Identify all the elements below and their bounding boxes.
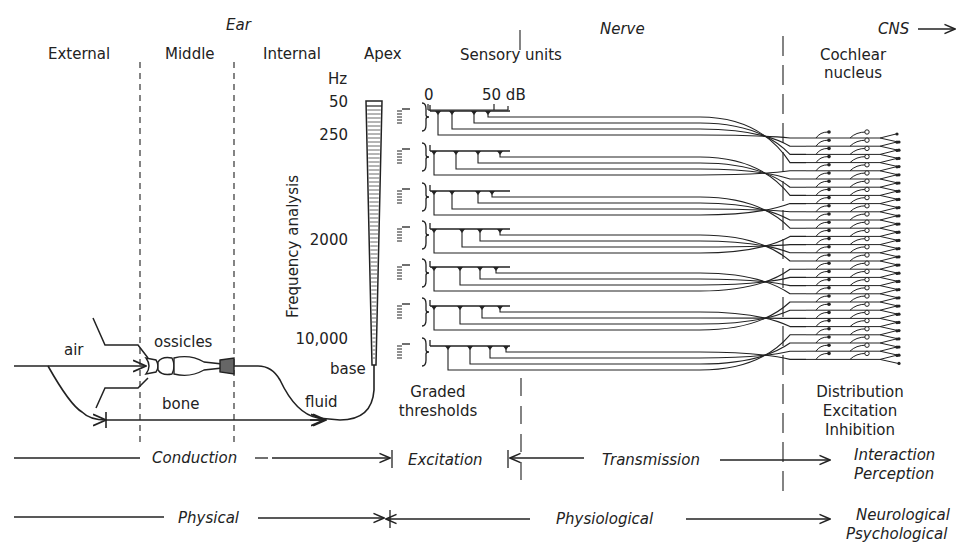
bone-label: bone [162,395,199,413]
fiber-ending [806,204,901,218]
bone-path-arrow [48,366,106,420]
cochlear-nucleus-label-2: nucleus [808,64,898,82]
fiber-ending [806,138,901,152]
internal-ear-label: Internal [263,45,321,63]
cn-function-inhibition: Inhibition [800,421,920,439]
cochlea-basilar-membrane [366,101,382,365]
excitation-stage: Excitation [408,451,483,469]
db-max-label: 50 dB [482,86,526,104]
freq-tick-10000: 10,000 [280,330,348,348]
sensory-unit [397,338,510,366]
cns-heading: CNS [878,20,909,38]
fiber-ending [806,228,901,242]
fluid-label: fluid [305,393,338,411]
fiber-ending [806,187,901,201]
ossicles-label: ossicles [154,333,212,351]
fiber-ending [806,195,901,209]
fiber-ending [806,146,901,160]
fiber-ending [806,179,901,193]
nerve-fiber [478,194,806,220]
apex-label: Apex [364,45,402,63]
physiological-domain: Physiological [556,510,653,528]
threshold-scale [428,104,508,110]
fiber-ending [806,220,901,234]
freq-tick-250: 250 [300,126,348,144]
fiber-ending [806,236,901,250]
cochlear-nucleus-endings [806,130,901,365]
nerve-fiber [438,114,806,138]
fiber-ending [806,154,901,168]
cn-function-excitation: Excitation [800,402,920,420]
division-lines [140,30,783,492]
fiber-ending [806,310,901,324]
graded-label: Graded [388,383,488,401]
nerve-fiber [452,114,806,146]
fiber-ending [806,163,901,177]
fiber-ending [806,253,901,267]
auditory-pathway-diagram: Frequency analysis [0,0,975,550]
db-zero-label: 0 [424,86,434,104]
fiber-ending [806,294,901,308]
sensory-units-label: Sensory units [460,46,562,64]
fiber-ending [806,277,901,291]
neurological-domain: Neurological [856,506,950,524]
sensory-unit [397,221,510,249]
sensory-units [397,103,510,366]
sensory-unit [397,259,510,287]
fiber-ending [806,343,901,357]
fiber-ending [806,302,901,316]
thresholds-label: thresholds [388,402,488,420]
ear-heading: Ear [226,16,251,34]
nerve-fiber [488,114,806,163]
nerve-fiber [460,309,806,324]
perception-stage: Perception [854,465,934,483]
ossicles-chain [146,357,234,376]
air-label: air [64,341,84,359]
freq-tick-50: 50 [300,93,348,111]
fiber-ending [806,327,901,341]
nerve-fiber [460,270,806,285]
external-ear-label: External [48,45,110,63]
nerve-heading: Nerve [600,20,645,38]
cn-function-distribution: Distribution [800,383,920,401]
nerve-fibers [434,114,806,370]
physical-domain: Physical [178,509,239,527]
fiber-ending [806,269,901,283]
transmission-stage: Transmission [602,451,700,469]
fiber-ending [806,245,901,259]
cochlea-base-label: base [330,360,366,378]
fiber-ending [806,261,901,275]
conduction-stage: Conduction [152,449,237,467]
psychological-domain: Psychological [846,525,947,543]
nerve-fiber [478,154,806,187]
interaction-stage: Interaction [854,446,935,464]
fiber-ending [806,171,901,185]
fiber-ending [806,212,901,226]
fiber-ending [806,351,901,365]
middle-ear-label: Middle [165,45,215,63]
nerve-fiber [470,343,806,364]
fiber-ending [806,335,901,349]
nerve-fiber [480,270,806,286]
sensory-unit [397,143,510,171]
freq-tick-2000: 2000 [290,231,348,249]
fiber-ending [806,130,901,144]
sensory-unit [397,298,510,326]
fiber-ending [806,286,901,300]
fiber-ending [806,318,901,332]
cochlear-nucleus-label-1: Cochlear [808,46,898,64]
hz-unit-label: Hz [328,70,347,88]
